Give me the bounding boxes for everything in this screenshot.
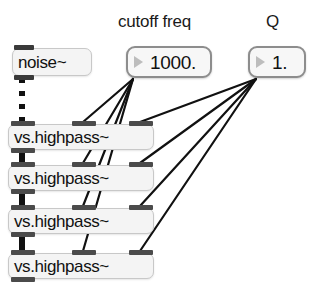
- object-highpass-3-label: vs.highpass~: [14, 212, 109, 231]
- object-highpass-1[interactable]: vs.highpass~: [8, 124, 154, 150]
- inlet-highpass-1-q[interactable]: [129, 121, 153, 126]
- object-highpass-3[interactable]: vs.highpass~: [8, 208, 154, 234]
- patcher-canvas[interactable]: cutoff freq Q noise~ vs.highpass~ vs.hig…: [0, 0, 334, 300]
- cable-q-to-hp3-right[interactable]: [140, 79, 256, 206]
- inlet-highpass-2-cutoff[interactable]: [72, 162, 96, 167]
- number-box-q-value: 1.: [272, 52, 287, 73]
- inlet-highpass-2-signal[interactable]: [11, 162, 35, 167]
- cable-cutoff-to-hp1-mid[interactable]: [83, 79, 133, 122]
- object-noise-label: noise~: [18, 53, 66, 72]
- number-box-cutoff-freq[interactable]: 1000.: [126, 46, 212, 78]
- object-noise[interactable]: noise~: [12, 48, 92, 76]
- outlet-highpass-1-signal[interactable]: [11, 148, 35, 153]
- inlet-highpass-3-q[interactable]: [129, 205, 153, 210]
- object-highpass-2[interactable]: vs.highpass~: [8, 165, 154, 191]
- inlet-highpass-1-signal[interactable]: [11, 121, 35, 126]
- inlet-highpass-3-signal[interactable]: [11, 205, 35, 210]
- number-box-cutoff-freq-value: 1000.: [150, 52, 196, 73]
- comment-cutoff-freq: cutoff freq: [118, 12, 191, 32]
- outlet-highpass-2-signal[interactable]: [11, 189, 35, 194]
- number-box-q[interactable]: 1.: [248, 46, 306, 78]
- outlet-highpass-4-signal[interactable]: [11, 277, 35, 282]
- cable-q-to-hp2-right[interactable]: [140, 79, 256, 163]
- inlet-highpass-4-cutoff[interactable]: [72, 250, 96, 255]
- object-highpass-4[interactable]: vs.highpass~: [8, 253, 154, 279]
- inlet-highpass-4-q[interactable]: [129, 250, 153, 255]
- outlet-highpass-3-signal[interactable]: [11, 232, 35, 237]
- inlet-highpass-4-signal[interactable]: [11, 250, 35, 255]
- object-highpass-1-label: vs.highpass~: [14, 128, 109, 147]
- inlet-highpass-2-q[interactable]: [129, 162, 153, 167]
- cable-q-to-hp1-right[interactable]: [140, 79, 256, 122]
- inlet-highpass-3-cutoff[interactable]: [72, 205, 96, 210]
- object-highpass-2-label: vs.highpass~: [14, 169, 109, 188]
- cable-q-to-hp4-right[interactable]: [140, 79, 256, 251]
- object-highpass-4-label: vs.highpass~: [14, 257, 109, 276]
- inlet-highpass-1-cutoff[interactable]: [72, 121, 96, 126]
- inlet-noise-0[interactable]: [14, 45, 34, 50]
- outlet-noise-0[interactable]: [14, 75, 34, 80]
- number-box-q-triangle-icon: [256, 56, 265, 68]
- comment-q: Q: [266, 12, 279, 32]
- number-box-triangle-icon: [134, 56, 143, 68]
